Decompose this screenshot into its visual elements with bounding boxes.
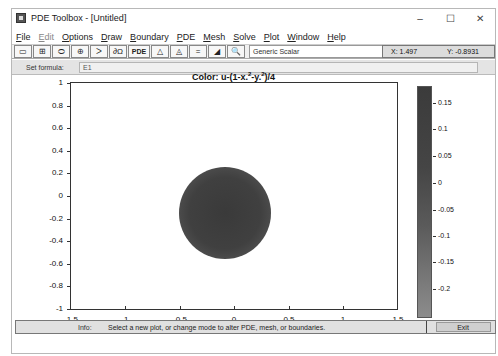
menu-options[interactable]: Options (62, 32, 93, 42)
y-tick-label: 0.2 (33, 168, 63, 177)
colorbar-tick (433, 156, 436, 157)
x-tick (343, 306, 344, 310)
menu-window[interactable]: Window (287, 32, 319, 42)
colorbar-label: 0.05 (438, 152, 452, 159)
rectangle-icon[interactable]: ▭ (14, 45, 32, 58)
mesh-triangle-icon[interactable]: △ (151, 45, 169, 58)
y-tick (67, 173, 71, 174)
y-tick-label: 0.8 (33, 101, 63, 110)
refine-mesh-icon[interactable]: ◬ (170, 45, 188, 58)
menu-draw-label: raw (108, 32, 123, 42)
ellipse-centered-icon[interactable]: ⊕ (71, 45, 89, 58)
menu-mesh[interactable]: Mesh (203, 32, 225, 42)
y-tick-label: -1 (33, 304, 63, 313)
zoom-icon[interactable]: 🔍 (227, 45, 245, 58)
maximize-button[interactable]: ☐ (435, 9, 465, 27)
polygon-icon[interactable]: ᐳ (90, 45, 108, 58)
y-label: Y: (447, 48, 453, 55)
window-title: PDE Toolbox - [Untitled] (31, 13, 126, 23)
y-tick (67, 151, 71, 152)
plot-title: Color: u-(1-x.2-y.2)/4 (192, 71, 275, 82)
colorbar-tick (433, 103, 436, 104)
colorbar-tick (433, 210, 436, 211)
menu-help-label: elp (334, 32, 346, 42)
menu-solve[interactable]: Solve (233, 32, 256, 42)
menu-file-label: ile (22, 32, 31, 42)
y-tick (67, 264, 71, 265)
y-tick (67, 286, 71, 287)
y-tick (67, 196, 71, 197)
title-bar: PDE Toolbox - [Untitled] – ☐ ✕ (12, 9, 495, 27)
exit-area: Exit (426, 321, 498, 333)
colorbar-tick (433, 289, 436, 290)
cursor-coordinates: X: 1.497 Y: -0.8931 (382, 45, 495, 58)
y-tick-label: 1 (33, 78, 63, 87)
colorbar-tick (433, 183, 436, 184)
rectangle-centered-icon[interactable]: ⊞ (33, 45, 51, 58)
menu-mesh-mnemonic: M (203, 32, 211, 42)
menu-mesh-label: esh (211, 32, 226, 42)
x-coordinate: X: 1.497 (391, 48, 441, 55)
menu-boundary[interactable]: Boundary (130, 32, 169, 42)
y-tick-label: -0.6 (33, 259, 63, 268)
y-tick (67, 241, 71, 242)
menu-edit-label: dit (45, 32, 55, 42)
y-tick-label: 0 (33, 191, 63, 200)
y-tick-label: -0.2 (33, 214, 63, 223)
colorbar (417, 86, 432, 318)
menu-window-mnemonic: W (287, 32, 296, 42)
menu-file[interactable]: File (16, 32, 31, 42)
set-formula-label: Set formula: (26, 64, 76, 71)
info-label: Info: (78, 324, 98, 331)
menu-pde[interactable]: PDE (177, 32, 196, 42)
menu-edit[interactable]: Edit (39, 32, 55, 42)
exit-button[interactable]: Exit (436, 322, 491, 332)
minimize-button[interactable]: – (405, 9, 435, 27)
status-bar: Info: Select a new plot, or change mode … (15, 320, 496, 334)
title-part: )/4 (265, 72, 276, 82)
colorbar-label: 0.1 (438, 125, 448, 132)
menu-options-mnemonic: O (62, 32, 69, 42)
colorbar-label: -0.2 (438, 285, 450, 292)
menu-help[interactable]: Help (327, 32, 346, 42)
application-mode-value: Generic Scalar (253, 48, 299, 55)
colorbar-tick (433, 262, 436, 263)
colorbar-label: -0.05 (438, 206, 454, 213)
x-tick (125, 306, 126, 310)
x-tick (289, 306, 290, 310)
pde-spec-button[interactable]: PDE (128, 45, 150, 58)
y-tick (67, 83, 71, 84)
colorbar-tick (433, 129, 436, 130)
menu-draw[interactable]: Draw (101, 32, 122, 42)
y-tick-label: -0.4 (33, 236, 63, 245)
solution-disk (179, 167, 271, 259)
plot-axes[interactable]: 1 0.8 0.6 0.4 0.2 0 -0.2 -0.4 -0.6 -0.8 … (70, 82, 398, 310)
menu-pde-label: DE (183, 32, 196, 42)
colorbar-label: -0.15 (438, 258, 454, 265)
plot-surface-icon[interactable]: ◢ (208, 45, 226, 58)
colorbar-label: -0.1 (438, 232, 450, 239)
y-tick (67, 219, 71, 220)
window-controls: – ☐ ✕ (405, 9, 495, 27)
toolbar: ▭ ⊞ ⬭ ⊕ ᐳ ∂Ω PDE △ ◬ = ◢ 🔍 Generic Scala… (12, 44, 495, 59)
y-value: -0.8931 (455, 48, 479, 55)
y-tick-label: 0.4 (33, 146, 63, 155)
set-formula-input[interactable]: E1 (79, 62, 478, 73)
boundary-mode-icon[interactable]: ∂Ω (109, 45, 127, 58)
y-tick-label: 0.6 (33, 123, 63, 132)
close-button[interactable]: ✕ (465, 9, 495, 27)
y-tick (67, 128, 71, 129)
x-tick (180, 306, 181, 310)
matlab-app-icon (16, 13, 26, 23)
application-mode-select[interactable]: Generic Scalar ▾ (249, 45, 401, 58)
y-tick (67, 106, 71, 107)
x-value: 1.497 (400, 48, 418, 55)
menu-plot[interactable]: Plot (264, 32, 280, 42)
ellipse-icon[interactable]: ⬭ (52, 45, 70, 58)
solve-equals-icon[interactable]: = (189, 45, 207, 58)
title-part: -y. (251, 72, 261, 82)
colorbar-label: 0.15 (438, 99, 452, 106)
y-tick-label: -0.8 (33, 281, 63, 290)
x-tick (234, 306, 235, 310)
colorbar-label: 0 (438, 179, 442, 186)
